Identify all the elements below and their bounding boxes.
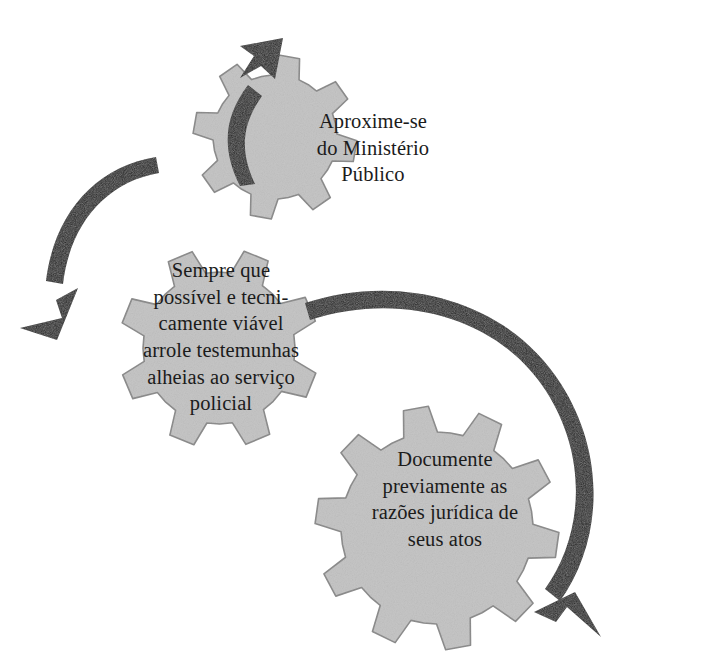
gear-diagram-figure: Aproxime-se do Ministério Público Sempre…: [0, 0, 710, 669]
gears-layer: [122, 55, 559, 650]
gear-diagram-canvas: [0, 0, 710, 669]
gear-documente-previamente: [315, 406, 559, 649]
gear-sempre-que-possivel: [122, 251, 316, 445]
gear-aproxime-se: [193, 55, 357, 219]
